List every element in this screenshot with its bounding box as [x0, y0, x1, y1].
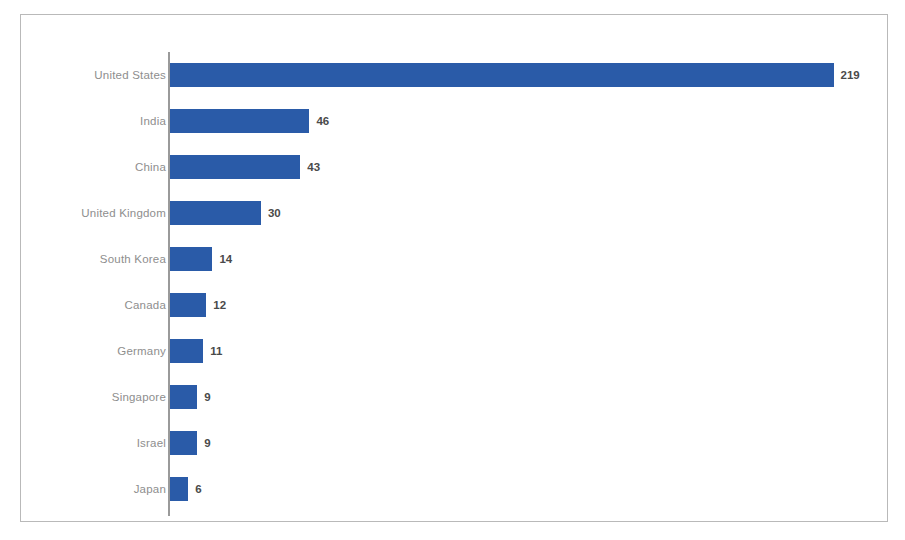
bar-track: 43	[170, 155, 320, 179]
bar-value-label: 12	[213, 299, 226, 311]
bar-track: 12	[170, 293, 226, 317]
bar-value-label: 43	[307, 161, 320, 173]
bar-rect[interactable]	[170, 431, 197, 455]
bar-row: South Korea14	[21, 236, 887, 282]
bar-value-label: 6	[195, 483, 201, 495]
bar-category-label: Singapore	[112, 391, 166, 403]
bar-category-label: Japan	[134, 483, 166, 495]
bar-row: Israel9	[21, 420, 887, 466]
bar-value-label: 9	[204, 437, 210, 449]
bar-row: Canada12	[21, 282, 887, 328]
bar-category-label: United Kingdom	[81, 207, 166, 219]
bar-value-label: 14	[219, 253, 232, 265]
bar-track: 14	[170, 247, 232, 271]
bar-category-label: Germany	[117, 345, 166, 357]
bar-value-label: 46	[316, 115, 329, 127]
bar-track: 30	[170, 201, 281, 225]
bar-value-label: 30	[268, 207, 281, 219]
bar-rect[interactable]	[170, 293, 206, 317]
bar-rect[interactable]	[170, 201, 261, 225]
bar-track: 9	[170, 385, 211, 409]
bar-row: Japan6	[21, 466, 887, 512]
bar-row: Singapore9	[21, 374, 887, 420]
bar-row: Germany11	[21, 328, 887, 374]
bar-row: India46	[21, 98, 887, 144]
bar-value-label: 9	[204, 391, 210, 403]
bar-rect[interactable]	[170, 155, 300, 179]
bar-category-label: Israel	[137, 437, 166, 449]
bar-rect[interactable]	[170, 339, 203, 363]
bar-row: United States219	[21, 52, 887, 98]
bar-category-label: South Korea	[100, 253, 166, 265]
bar-value-label: 219	[841, 69, 860, 81]
bar-row: China43	[21, 144, 887, 190]
bar-category-label: United States	[94, 69, 166, 81]
bar-category-label: India	[140, 115, 166, 127]
bar-track: 11	[170, 339, 223, 363]
bar-track: 9	[170, 431, 211, 455]
plot-area: United States219India46China43United Kin…	[21, 15, 887, 521]
bar-category-label: China	[135, 161, 166, 173]
bar-category-label: Canada	[125, 299, 166, 311]
bar-track: 219	[170, 63, 860, 87]
bar-chart-figure: United States219India46China43United Kin…	[20, 14, 888, 522]
bar-rect[interactable]	[170, 63, 834, 87]
bar-rect[interactable]	[170, 109, 309, 133]
bar-rect[interactable]	[170, 477, 188, 501]
bar-track: 46	[170, 109, 329, 133]
bar-rect[interactable]	[170, 385, 197, 409]
bar-rect[interactable]	[170, 247, 212, 271]
bar-row: United Kingdom30	[21, 190, 887, 236]
bar-track: 6	[170, 477, 202, 501]
bar-value-label: 11	[210, 345, 222, 357]
